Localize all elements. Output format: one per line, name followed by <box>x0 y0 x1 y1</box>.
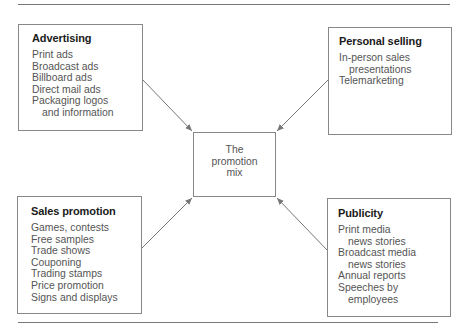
list-item: Telemarketing <box>339 75 451 87</box>
list-item: In-person sales <box>339 52 451 64</box>
advertising-items: Print ads Broadcast ads Billboard ads Di… <box>32 49 142 119</box>
center-line: mix <box>194 167 275 179</box>
publicity-title: Publicity <box>338 207 450 219</box>
list-item: Annual reports <box>338 270 450 282</box>
personal-selling-title: Personal selling <box>339 35 451 47</box>
list-item: Packaging logos <box>32 95 142 107</box>
list-item: Couponing <box>31 257 141 269</box>
sales-promotion-title: Sales promotion <box>31 205 141 217</box>
advertising-title: Advertising <box>32 32 142 44</box>
list-item: Direct mail ads <box>32 84 142 96</box>
list-item: Trading stamps <box>31 268 141 280</box>
list-item: Print ads <box>32 49 142 61</box>
list-item: Trade shows <box>31 245 141 257</box>
list-item: Signs and displays <box>31 292 141 304</box>
list-item: Billboard ads <box>32 72 142 84</box>
arrow-personal-selling <box>277 80 328 131</box>
sales-promotion-items: Games, contests Free samples Trade shows… <box>31 222 141 303</box>
promotion-mix-box: The promotion mix <box>193 132 276 197</box>
list-item: and information <box>32 107 142 119</box>
list-item: Speeches by <box>338 282 450 294</box>
personal-selling-box: Personal selling In-person sales present… <box>328 27 452 135</box>
sales-promotion-box: Sales promotion Games, contests Free sam… <box>17 196 142 314</box>
list-item: Print media <box>338 224 450 236</box>
arrow-advertising <box>142 79 192 131</box>
list-item: news stories <box>338 236 450 248</box>
list-item: Broadcast ads <box>32 61 142 73</box>
publicity-items: Print media news stories Broadcast media… <box>338 224 450 305</box>
list-item: Games, contests <box>31 222 141 234</box>
list-item: presentations <box>339 64 451 76</box>
advertising-box: Advertising Print ads Broadcast ads Bill… <box>18 24 143 131</box>
center-line: The <box>194 144 275 156</box>
list-item: news stories <box>338 259 450 271</box>
list-item: employees <box>338 294 450 306</box>
arrow-sales-promotion <box>141 198 192 249</box>
center-line: promotion <box>194 156 275 168</box>
personal-selling-items: In-person sales presentations Telemarket… <box>339 52 451 87</box>
list-item: Broadcast media <box>338 247 450 259</box>
arrow-publicity <box>277 198 327 250</box>
list-item: Free samples <box>31 234 141 246</box>
list-item: Price promotion <box>31 280 141 292</box>
publicity-box: Publicity Print media news stories Broad… <box>327 198 451 317</box>
